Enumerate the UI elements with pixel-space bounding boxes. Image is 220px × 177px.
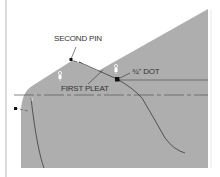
second-pin-dot xyxy=(70,58,73,61)
fabric-shape xyxy=(21,9,208,168)
pleat-diagram xyxy=(0,0,220,177)
second-pin-leader xyxy=(71,47,76,59)
first-pleat-label: FIRST PLEAT xyxy=(61,84,109,93)
left-marker-dot xyxy=(14,107,17,110)
dot-marker xyxy=(115,77,120,82)
second-pin-label: SECOND PIN xyxy=(54,34,102,43)
dot-label: ¾" DOT xyxy=(132,67,159,76)
